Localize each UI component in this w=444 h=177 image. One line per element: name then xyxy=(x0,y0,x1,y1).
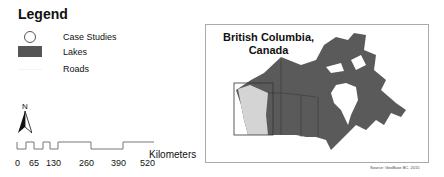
lake-swatch-icon xyxy=(18,46,42,57)
north-arrow-icon xyxy=(18,111,32,135)
legend-item-case-studies: Case Studies xyxy=(18,30,44,44)
canada-map xyxy=(206,25,428,162)
legend-item-lakes: Lakes xyxy=(18,45,44,59)
scale-bar xyxy=(14,141,154,155)
case-study-circle-icon xyxy=(24,31,36,43)
legend-item-roads: Roads xyxy=(18,62,44,76)
source-citation: Source: GeoBase BC, 2015 xyxy=(370,165,419,170)
road-line-icon xyxy=(18,69,42,70)
legend-title: Legend xyxy=(18,6,68,22)
inset-map: British Columbia, Canada xyxy=(205,24,429,163)
scale-unit: Kilometers xyxy=(149,149,196,160)
